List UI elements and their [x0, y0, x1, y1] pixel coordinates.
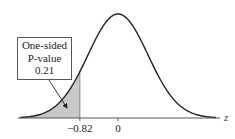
tick-label-neg-0.82: −0.82 [67, 122, 92, 134]
tick-label-zero: 0 [115, 122, 121, 134]
annotation-line-3: 0.21 [35, 64, 54, 76]
annotation-line-2: P-value [28, 52, 62, 64]
normal-curve-chart: −0.82 0 z One-sided P-value 0.21 [0, 0, 235, 139]
annotation-line-1: One-sided [22, 39, 68, 51]
axis-label-z: z [223, 111, 229, 123]
